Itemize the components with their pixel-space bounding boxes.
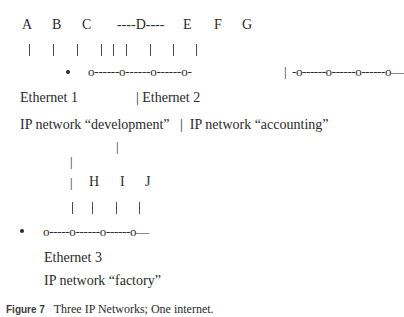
ethernet2-wire: -o------o------o------o— [292,64,404,80]
figure-title: Three IP Networks; One internet. [54,302,214,316]
drop-line-tick [101,44,102,56]
host-label-f: F [214,17,222,33]
drop-line-tick [116,202,117,214]
host-label-b: B [52,17,61,33]
figure-caption-text [45,302,54,316]
ethernet3-label: Ethernet 3 [44,250,102,266]
network-endpoint-dot-icon [20,229,24,233]
ip-networks-label: IP network “development” | IP network “a… [20,117,329,133]
drop-line-tick [173,44,174,56]
drop-line-tick [150,44,151,56]
ethernet2-label: | Ethernet 2 [136,90,200,106]
host-label-a: A [22,17,32,33]
network-endpoint-dot-icon [66,70,70,74]
ip-network-factory-label: IP network “factory” [44,273,161,289]
host-label-j: J [145,174,150,190]
host-label-i: I [120,174,125,190]
drop-line-tick [92,202,93,214]
drop-line-tick [196,44,197,56]
drop-line-tick [53,44,54,56]
vertical-connector: | [116,139,119,155]
drop-line-tick [139,202,140,214]
drop-line-tick [72,202,73,214]
ethernet3-wire: o-----o------o------o— [43,224,149,240]
drop-line-tick [29,44,30,56]
drop-line-tick [77,44,78,56]
host-label-d: ----D---- [117,17,164,33]
gateway-separator: | [284,64,287,80]
ethernet1-wire: o------o------o------o- [88,64,192,80]
figure-caption: Figure 7 Three IP Networks; One internet… [0,288,214,317]
host-label-g: G [242,17,252,33]
lower-connector: | [70,154,73,170]
ethernet1-label: Ethernet 1 [20,90,78,106]
host-label-c: C [82,17,91,33]
drop-line-tick [126,44,127,56]
host-label-e: E [183,17,192,33]
drop-line-tick [113,44,114,56]
host-label-h: H [89,174,99,190]
figure-number: Figure 7 [6,304,45,315]
connector-bar: | [70,175,73,191]
